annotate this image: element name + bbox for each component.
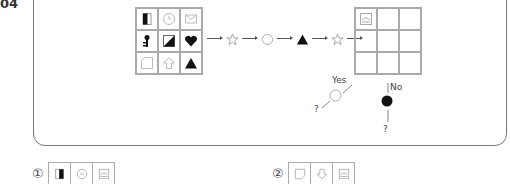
grid-cell-empty (399, 52, 421, 74)
half-filled-rectangle-icon (136, 8, 158, 30)
puzzle-frame (33, 0, 507, 146)
option-icons (288, 162, 355, 184)
grid-cell-empty (355, 30, 377, 52)
arrow-right-icon (207, 38, 223, 40)
arrow-right-icon (277, 38, 293, 40)
grid-cell-empty (399, 30, 421, 52)
grid-cell-empty (377, 52, 399, 74)
filled-circle-icon (381, 95, 393, 107)
half-filled-rectangle-icon (49, 163, 71, 184)
folded-corner-square-icon (136, 52, 158, 74)
heart-icon (180, 30, 202, 52)
question-number: 04 (0, 0, 18, 11)
option-icons (48, 162, 115, 184)
yes-result: ? (314, 104, 319, 114)
transformation-flow (204, 32, 366, 46)
filled-triangle-icon (296, 33, 309, 46)
circle-dash-icon (71, 163, 93, 184)
source-grid (135, 7, 203, 75)
image-frame-icon (355, 8, 377, 30)
option-2[interactable]: ② (272, 162, 355, 184)
no-result: ? (383, 124, 388, 134)
clock-icon (158, 8, 180, 30)
image-frame-icon (333, 163, 354, 184)
yes-arrow-icon (340, 84, 354, 94)
arrow-right-icon (242, 38, 258, 40)
grid-cell-empty (399, 8, 421, 30)
folded-corner-square-icon (289, 163, 311, 184)
envelope-icon (180, 8, 202, 30)
diagonal-half-square-icon (158, 30, 180, 52)
star-outline-icon (226, 33, 239, 46)
down-arrow-outline-icon (311, 163, 333, 184)
no-result-arrow-icon (385, 110, 391, 124)
yes-result-arrow-icon (320, 100, 332, 110)
filled-triangle-icon (180, 52, 202, 74)
target-grid (354, 7, 422, 75)
star-outline-icon (331, 33, 344, 46)
grid-cell-empty (377, 30, 399, 52)
grid-cell-empty (355, 52, 377, 74)
up-arrow-outline-icon (158, 52, 180, 74)
grid-cell-empty (377, 8, 399, 30)
key-icon (136, 30, 158, 52)
image-frame-icon (93, 163, 114, 184)
option-1[interactable]: ① (32, 162, 115, 184)
arrow-right-icon (312, 38, 328, 40)
option-number: ② (272, 166, 288, 181)
circle-outline-icon (261, 33, 274, 46)
no-label: No (390, 82, 402, 92)
option-number: ① (32, 166, 48, 181)
